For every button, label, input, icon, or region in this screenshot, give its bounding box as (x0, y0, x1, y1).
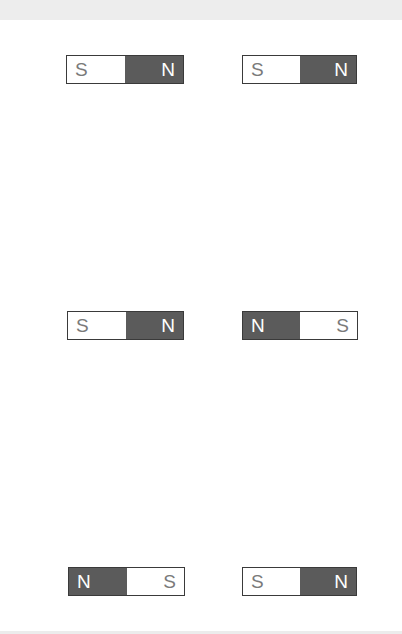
top-band (0, 0, 402, 20)
south-pole: S (67, 56, 125, 83)
north-pole: N (126, 312, 184, 339)
magnet-3: S N (67, 311, 184, 340)
magnet-2: S N (242, 55, 357, 84)
magnet-1: S N (66, 55, 184, 84)
north-pole: N (125, 56, 183, 83)
north-pole: N (243, 312, 300, 339)
magnet-6: S N (242, 567, 357, 596)
south-pole: S (127, 568, 185, 595)
south-pole: S (300, 312, 357, 339)
south-pole: S (243, 56, 300, 83)
magnet-5: N S (68, 567, 185, 596)
south-pole: S (68, 312, 126, 339)
south-pole: S (243, 568, 300, 595)
north-pole: N (300, 568, 357, 595)
north-pole: N (300, 56, 357, 83)
north-pole: N (69, 568, 127, 595)
magnet-4: N S (242, 311, 358, 340)
